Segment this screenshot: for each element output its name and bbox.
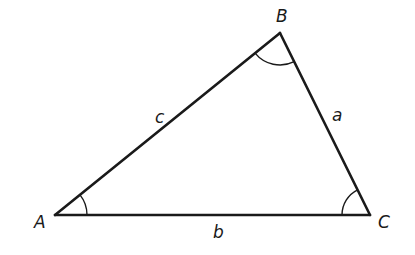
triangle-diagram: A B C c a b — [0, 0, 415, 255]
angle-mark-a — [80, 195, 87, 215]
angle-mark-c — [342, 190, 358, 215]
side-c — [55, 33, 280, 215]
side-a — [280, 33, 370, 215]
vertex-label-a: A — [33, 212, 46, 232]
side-label-a: a — [332, 105, 342, 125]
angle-mark-b — [255, 53, 294, 65]
side-label-b: b — [213, 222, 224, 242]
vertex-label-c: C — [378, 212, 390, 232]
side-label-c: c — [155, 107, 165, 127]
vertex-label-b: B — [276, 6, 288, 26]
